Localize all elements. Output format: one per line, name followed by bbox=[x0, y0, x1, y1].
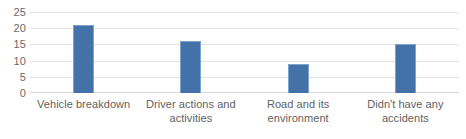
bar-slot bbox=[352, 12, 459, 93]
x-axis-category-label: Didn't have any accidents bbox=[352, 97, 459, 139]
x-axis-category-label: Vehicle breakdown bbox=[30, 97, 137, 139]
plot-area bbox=[30, 12, 459, 93]
y-axis-tick-label: 0 bbox=[0, 88, 26, 99]
bar-chart: 25 20 15 10 5 0 bbox=[0, 0, 466, 139]
y-axis-tick-label: 5 bbox=[0, 72, 26, 83]
bar bbox=[180, 41, 201, 93]
bar-slot bbox=[137, 12, 244, 93]
y-axis-tick-label: 20 bbox=[0, 23, 26, 34]
bar-slot bbox=[30, 12, 137, 93]
bar-series bbox=[30, 12, 459, 93]
bar bbox=[288, 64, 309, 93]
bar-slot bbox=[245, 12, 352, 93]
y-axis-tick-label: 25 bbox=[0, 7, 26, 18]
x-axis-category-label: Driver actions and activities bbox=[137, 97, 244, 139]
y-axis-tick-label: 15 bbox=[0, 39, 26, 50]
bar bbox=[73, 25, 94, 93]
y-axis-tick-label: 10 bbox=[0, 56, 26, 67]
y-axis: 25 20 15 10 5 0 bbox=[0, 0, 26, 105]
x-axis: Vehicle breakdown Driver actions and act… bbox=[30, 97, 459, 139]
bar bbox=[395, 44, 416, 93]
x-axis-category-label: Road and its environment bbox=[245, 97, 352, 139]
